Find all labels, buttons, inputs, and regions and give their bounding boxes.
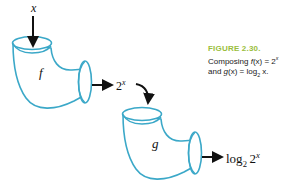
intermediate-exponent: x bbox=[122, 78, 126, 87]
caption-line-2: and g(x) = log2 x. bbox=[208, 67, 304, 79]
function-label-f: f bbox=[39, 66, 43, 79]
output-log-word: log bbox=[226, 151, 243, 166]
figure-caption: FIGURE 2.30. Composing f(x) = 2x and g(x… bbox=[208, 44, 304, 79]
pipe-g-top-opening bbox=[123, 108, 162, 121]
curved-arrow-icon bbox=[136, 84, 148, 103]
caption-line1-pre: Composing bbox=[208, 57, 251, 66]
caption-title: FIGURE 2.30. bbox=[208, 44, 304, 54]
input-label-x: x bbox=[31, 2, 36, 14]
caption-line2-pre: and bbox=[208, 67, 224, 76]
pipe-g-body bbox=[123, 114, 195, 179]
output-log-base: 2 bbox=[243, 159, 247, 169]
pipe-diagram bbox=[0, 0, 307, 188]
intermediate-label: 2x bbox=[116, 79, 126, 92]
caption-line1-mid: (x) = 2 bbox=[253, 57, 276, 66]
pipe-f bbox=[13, 37, 92, 109]
figure-container: x f g 2x log2 2x FIGURE 2.30. Composing … bbox=[0, 0, 307, 188]
caption-line-1: Composing f(x) = 2x bbox=[208, 55, 304, 67]
pipe-f-body bbox=[13, 43, 85, 108]
function-label-g: g bbox=[152, 137, 159, 150]
caption-line2-mid: (x) = log bbox=[228, 67, 257, 76]
output-arg-exponent: x bbox=[256, 150, 260, 160]
pipe-g bbox=[123, 108, 202, 180]
caption-line2-post: x. bbox=[260, 67, 268, 76]
output-label: log2 2x bbox=[226, 151, 260, 169]
caption-line1-sup: x bbox=[276, 55, 279, 61]
